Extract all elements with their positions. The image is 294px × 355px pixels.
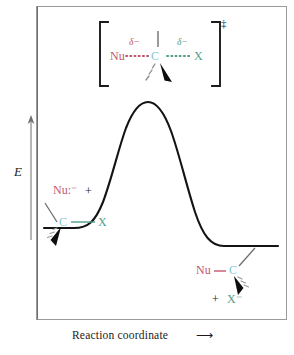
reaction-coordinate-label: Reaction coordinate (72, 330, 168, 342)
reactant-plus-sign: + (85, 185, 92, 197)
energy-axis-label: E (14, 165, 22, 178)
reactant-bond-up (45, 203, 57, 222)
ts-carbon-label: C (151, 50, 159, 62)
product-carbon-label: C (229, 264, 237, 276)
product-bond-up (239, 248, 255, 266)
double-dagger-icon: ‡ (221, 18, 227, 29)
product-nucleophile-label: Nu (196, 264, 211, 276)
energy-profile-curve (44, 102, 278, 246)
reactant-carbon-label: C (59, 216, 67, 228)
reactant-nucleophile-label: Nu:⁻ (53, 184, 77, 196)
ts-delta-negative-left: δ− (129, 38, 140, 48)
energy-axis-arrow (28, 115, 35, 240)
product-leaving-group-label: X⁻ (227, 293, 242, 305)
product-plus-sign: + (212, 293, 219, 305)
reactant-leaving-group-label: X (98, 216, 107, 228)
sn2-energy-diagram: E Reaction coordinate ⟶ Nu δ− C δ− X ‡ N… (0, 0, 294, 355)
ts-hashed-bond (146, 64, 155, 80)
ts-leaving-group-label: X (194, 50, 203, 62)
figure-frame (37, 7, 287, 320)
reaction-coordinate-arrow-icon: ⟶ (196, 330, 213, 342)
ts-nucleophile-label: Nu (110, 50, 125, 62)
diagram-canvas (0, 0, 294, 355)
ts-wedge-bond (160, 63, 172, 82)
ts-delta-negative-right: δ− (177, 38, 188, 48)
